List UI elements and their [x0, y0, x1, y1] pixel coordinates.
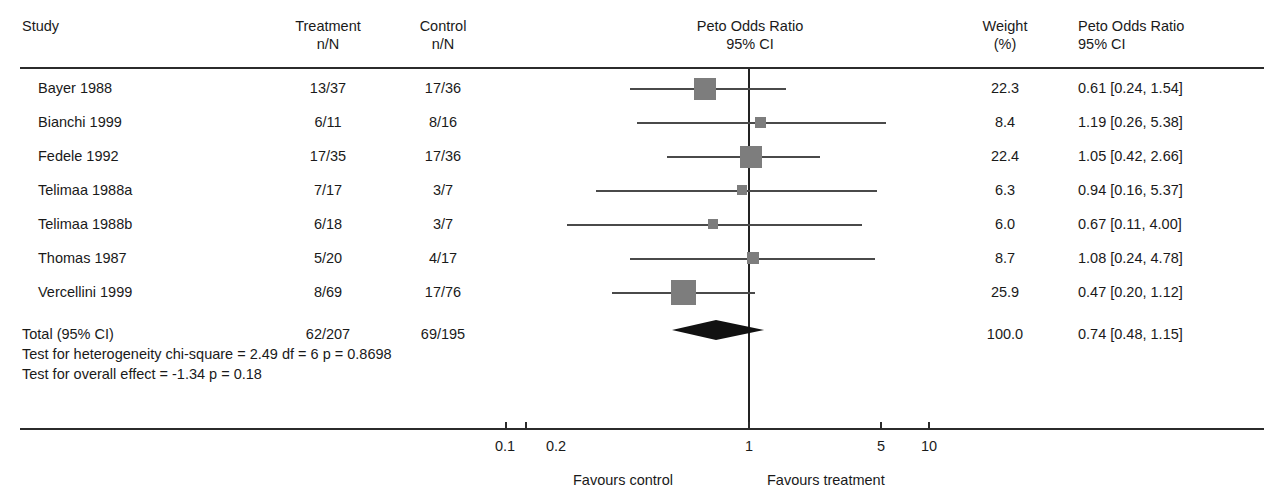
axis-tick-4 [928, 422, 930, 429]
axis-tick-label-4: 10 [899, 438, 959, 454]
favours-control-label: Favours control [573, 472, 673, 488]
axis-tick-0 [505, 422, 507, 429]
axis-tick-1 [525, 422, 527, 429]
axis-tick-3 [880, 422, 882, 429]
effect-marker-2 [740, 146, 762, 168]
axis-line [20, 428, 1264, 430]
axis-tick-label-1: 0.2 [526, 438, 586, 454]
effect-marker-3 [737, 185, 747, 195]
forest-plot-figure: Study Treatment n/N Control n/N Peto Odd… [0, 0, 1283, 501]
axis-tick-label-2: 1 [719, 438, 779, 454]
effect-marker-4 [708, 219, 718, 229]
effect-marker-5 [747, 252, 759, 264]
plot-area: 0.1 0.2 1 5 10 Favours control Favours t… [0, 0, 1283, 501]
favours-treatment-label: Favours treatment [767, 472, 885, 488]
axis-tick-2 [748, 422, 750, 429]
effect-marker-6 [671, 280, 696, 305]
summary-diamond [670, 318, 766, 342]
effect-marker-0 [694, 78, 716, 100]
effect-marker-1 [755, 117, 766, 128]
